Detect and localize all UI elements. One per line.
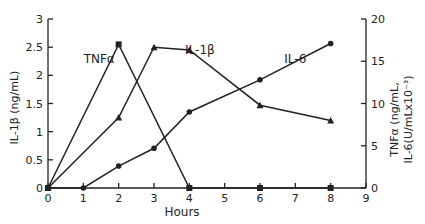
right-axis-label-line2: IL-6(U/mLx10⁻³) [402,75,415,163]
right-tick-label: 15 [371,55,385,68]
x-axis-label: Hours [164,205,199,219]
left-tick-label: 0.5 [26,154,44,167]
right-tick-label: 10 [371,98,385,111]
series-label: IL-1β [185,43,215,57]
circle-marker [328,41,334,47]
left-tick-label: 2.5 [26,41,44,54]
x-tick-label: 8 [327,192,334,205]
left-tick-label: 1.5 [26,98,44,111]
series-line [48,47,331,188]
line-chart: 00.511.522.53051015200123456789HoursIL-1… [0,0,425,224]
left-axis-label: IL-1β (ng/mL) [8,71,21,145]
left-tick-label: 0 [36,182,43,195]
x-tick-label: 5 [221,192,228,205]
square-marker [116,41,122,47]
right-tick-label: 0 [371,182,378,195]
series-label: TNFα [83,52,115,66]
right-tick-label: 20 [371,13,385,26]
x-tick-label: 3 [151,192,158,205]
square-marker [328,185,334,191]
series-label: IL-6 [284,52,306,66]
x-tick-label: 2 [115,192,122,205]
x-tick-label: 6 [257,192,264,205]
left-tick-label: 1 [36,126,43,139]
circle-marker [45,185,51,191]
x-tick-label: 1 [80,192,87,205]
circle-marker [257,77,263,83]
circle-marker [187,109,193,115]
right-axis-label-line1: TNFα (ng/mL, [388,82,401,157]
triangle-marker [115,114,122,121]
right-tick-label: 5 [371,140,378,153]
x-tick-label: 4 [186,192,193,205]
circle-marker [81,185,87,191]
left-tick-label: 3 [36,13,43,26]
square-marker [186,185,192,191]
left-tick-label: 2 [36,69,43,82]
x-tick-label: 7 [292,192,299,205]
square-marker [257,185,263,191]
x-tick-label: 0 [45,192,52,205]
circle-marker [151,145,157,151]
x-tick-label: 9 [363,192,370,205]
circle-marker [116,163,122,169]
